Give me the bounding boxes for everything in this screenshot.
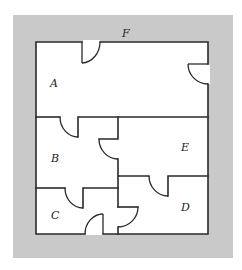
floor-plan-diagram: F A B C D E <box>0 0 242 270</box>
right-door-opening <box>207 65 210 84</box>
label-room-d: D <box>180 201 190 214</box>
label-room-b: B <box>50 152 59 165</box>
bottom-door-opening <box>86 232 103 235</box>
label-f: F <box>121 27 130 40</box>
label-room-e: E <box>180 141 189 154</box>
label-room-c: C <box>51 209 60 222</box>
label-room-a: A <box>49 77 58 90</box>
top-door-opening <box>83 40 100 43</box>
